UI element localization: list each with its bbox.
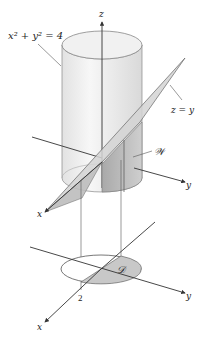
y-axis-upper-label: y <box>185 180 192 190</box>
y-axis-lower-label: y <box>185 291 192 301</box>
plane-label-leader <box>170 85 182 100</box>
radius-tick-label: 2 <box>78 293 83 303</box>
cylinder-label-leader <box>38 44 61 66</box>
x-axis-lower-label: x <box>37 322 42 332</box>
3d-solid-diagram: z y x x² + y² = 4 z = y 𝒲 y x 𝒟 2 <box>0 0 204 347</box>
cylinder-equation-label: x² + y² = 4 <box>8 30 63 41</box>
z-axis-label: z <box>98 9 104 19</box>
solid-w-label: 𝒲 <box>154 146 167 157</box>
y-axis-lower <box>30 247 185 293</box>
x-axis-upper-label: x <box>37 209 42 219</box>
plane-equation-label: z = y <box>170 105 195 115</box>
